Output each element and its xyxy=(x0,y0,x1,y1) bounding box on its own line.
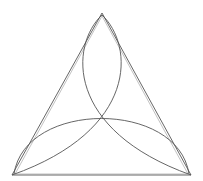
arc-apex-to-bottom-left xyxy=(12,15,121,175)
arc-apex-to-bottom-right xyxy=(83,15,191,175)
arc-bottom-lobe xyxy=(14,119,189,175)
triquetra-diagram xyxy=(0,0,203,181)
outer-triangle xyxy=(12,13,191,175)
inner-triangle-offset xyxy=(15,16,188,174)
